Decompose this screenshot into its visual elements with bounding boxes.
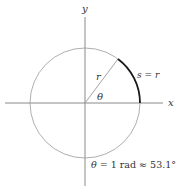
angle-label: θ: [97, 91, 103, 102]
y-axis-label: y: [81, 3, 88, 14]
caption-text: = 1 rad ≈ 53.1°: [97, 159, 176, 170]
caption: θ = 1 rad ≈ 53.1°: [91, 159, 176, 170]
arc-s: [118, 59, 140, 103]
x-axis-label: x: [168, 97, 174, 108]
radius-label: r: [96, 71, 102, 82]
radian-diagram: y x r θ s = r θ = 1 rad ≈ 53.1°: [0, 0, 178, 192]
arc-label: s = r: [137, 70, 160, 80]
